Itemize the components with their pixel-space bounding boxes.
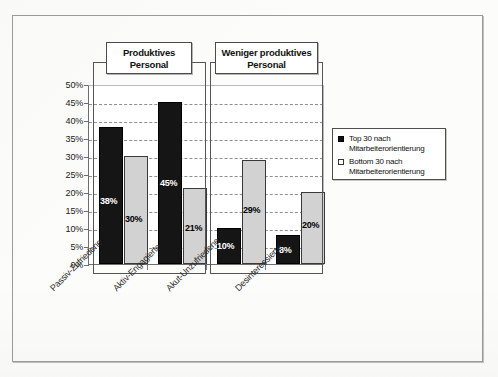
legend: Top 30 nach Mitarbeiterorientierung Bott…	[332, 128, 446, 180]
y-axis: 50% 45% 40% 35% 30% 25% 20% 15% 10% 5% 0…	[50, 0, 83, 377]
filled-square-marker-icon	[338, 136, 344, 142]
group-label-line1: Produktives	[123, 47, 175, 58]
group-label-produktives-personal: Produktives Personal	[106, 42, 192, 74]
legend-label-line1: Bottom 30 nach	[349, 157, 402, 166]
y-axis-tick-label: 35%	[51, 134, 83, 144]
x-axis-tick-mark	[206, 265, 207, 270]
y-axis-tick-label: 5%	[51, 242, 83, 252]
group-bracket-weniger-produktives-personal	[210, 62, 323, 274]
y-axis-tick-label: 10%	[51, 224, 83, 234]
group-label-weniger-produktives-personal: Weniger produktives Personal	[215, 42, 318, 74]
y-axis-tick-label: 45%	[51, 98, 83, 108]
legend-entry-bottom30: Bottom 30 nach Mitarbeiterorientierung	[338, 157, 441, 177]
y-axis-tick-label: 50%	[51, 80, 83, 90]
y-axis-tick-label: 25%	[51, 170, 83, 180]
chart-canvas: 50% 45% 40% 35% 30% 25% 20% 15% 10% 5% 0…	[0, 0, 498, 377]
legend-label-line1: Top 30 nach	[349, 134, 390, 143]
outlined-square-marker-icon	[338, 159, 344, 165]
legend-label-line2: Mitarbeiterorientierung	[349, 167, 441, 177]
y-axis-tick-label: 40%	[51, 116, 83, 126]
y-axis-tick-label: 20%	[51, 188, 83, 198]
legend-label-line2: Mitarbeiterorientierung	[349, 144, 441, 154]
group-bracket-produktives-personal	[93, 62, 206, 274]
y-axis-tick-label: 15%	[51, 206, 83, 216]
chart-screenshot: 50% 45% 40% 35% 30% 25% 20% 15% 10% 5% 0…	[0, 0, 498, 377]
y-axis-tick-label: 30%	[51, 152, 83, 162]
group-label-line1: Weniger produktives	[222, 47, 312, 58]
group-label-line2: Personal	[247, 59, 286, 70]
legend-entry-top30: Top 30 nach Mitarbeiterorientierung	[338, 134, 441, 154]
y-axis-tick-mark	[84, 265, 89, 266]
group-label-line2: Personal	[130, 59, 169, 70]
